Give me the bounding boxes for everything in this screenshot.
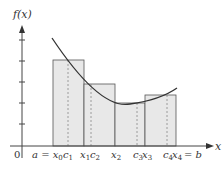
- origin-label: 0: [14, 149, 20, 160]
- x-tick-label: x3: [142, 149, 152, 162]
- riemann-rectangle-1: [53, 60, 84, 146]
- y-axis-arrow-icon: [19, 25, 25, 33]
- x-tick-label: = b: [184, 149, 202, 160]
- x-tick-label: c2: [90, 149, 100, 162]
- x-tick-label: x2: [111, 149, 121, 162]
- y-axis-label: f(x): [12, 8, 32, 21]
- x-tick-label: a = x0: [32, 149, 63, 162]
- x-axis-arrow-icon: [206, 143, 214, 149]
- x-tick-label: x4: [172, 149, 183, 162]
- riemann-rectangle-4: [145, 95, 176, 146]
- x-tick-label: x1: [80, 149, 90, 162]
- x-axis-label: x: [215, 140, 222, 153]
- riemann-rectangle-3: [115, 103, 145, 146]
- x-tick-labels: a = x0c1x1c2x2c3x3c4x4= b: [32, 149, 202, 162]
- x-tick-label: c1: [63, 149, 73, 162]
- riemann-sum-diagram: f(x) x 0 a = x0c1x1c2x2c3x3c4x4= b: [0, 0, 222, 172]
